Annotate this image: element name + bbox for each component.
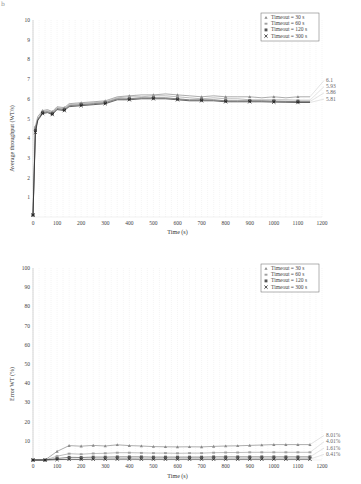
square-marker-icon <box>152 452 155 454</box>
x-tick-label: 800 <box>222 220 231 226</box>
square-marker-icon <box>80 453 83 455</box>
y-tick-label: 10 <box>25 438 31 444</box>
square-marker-icon <box>212 452 215 454</box>
square-marker-icon <box>176 452 179 454</box>
series-end-value: 5.86 <box>326 89 336 95</box>
y-tick-label: 4 <box>27 135 30 141</box>
y-tick-label: 30 <box>25 399 31 405</box>
y-tick-label: 60 <box>25 342 31 348</box>
filled-square-marker-icon <box>265 279 268 282</box>
x-tick-label: 1000 <box>268 220 279 226</box>
error-chart: 1020304050607080901000100200300400500600… <box>9 264 341 480</box>
y-tick-label: 5 <box>27 116 30 122</box>
legend-entry: Timeout = 30 s <box>271 14 304 20</box>
square-marker-icon <box>56 455 59 457</box>
x-tick-label: 100 <box>53 220 62 226</box>
square-marker-icon <box>224 452 227 454</box>
x-tick-label: 1100 <box>293 220 304 226</box>
y-tick-label: 50 <box>25 361 31 367</box>
y-tick-label: 6 <box>27 96 30 102</box>
x-tick-label: 700 <box>197 220 206 226</box>
legend-entry: Timeout = 60 s <box>271 271 304 277</box>
x-tick-label: 0 <box>32 220 35 226</box>
series-end-value: 5.81 <box>326 96 336 102</box>
series-end-value: 4.01% <box>326 438 341 444</box>
square-marker-icon <box>68 453 71 455</box>
x-tick-label: 600 <box>173 220 182 226</box>
series-end-value: 0.41% <box>326 451 341 457</box>
x-tick-label: 300 <box>101 220 110 226</box>
series-end-value: 5.93 <box>326 83 336 89</box>
y-tick-label: 3 <box>27 155 30 161</box>
series-30s: 6.1 <box>31 77 333 216</box>
x-tick-label: 400 <box>125 220 134 226</box>
y-tick-label: 7 <box>27 76 30 82</box>
x-tick-label: 800 <box>222 463 231 469</box>
square-marker-icon <box>260 451 263 453</box>
square-marker-icon <box>272 451 275 453</box>
square-marker-icon <box>236 452 239 454</box>
series-end-value: 6.1 <box>326 77 333 83</box>
x-tick-label: 900 <box>246 463 255 469</box>
square-marker-icon <box>265 23 268 25</box>
x-tick-label: 0 <box>32 463 35 469</box>
square-marker-icon <box>164 452 167 454</box>
y-axis-title: Average throughput (WT/s) <box>9 105 16 172</box>
legend-entry: Timeout = 120 s <box>271 26 307 32</box>
y-tick-label: 20 <box>25 419 31 425</box>
square-marker-icon <box>284 451 287 453</box>
square-marker-icon <box>200 452 203 454</box>
x-tick-label: 200 <box>77 220 86 226</box>
x-tick-label: 300 <box>101 463 110 469</box>
y-tick-label: 80 <box>25 303 31 309</box>
series-line <box>33 96 310 215</box>
x-axis-title: Time (s) <box>167 229 187 236</box>
x-tick-label: 1200 <box>317 220 328 226</box>
series-end-value: 1.61% <box>326 445 341 451</box>
square-marker-icon <box>296 451 299 453</box>
y-tick-label: 100 <box>22 265 31 271</box>
legend: Timeout = 30 sTimeout = 60 sTimeout = 12… <box>261 13 319 41</box>
y-tick-label: 70 <box>25 323 31 329</box>
x-tick-label: 500 <box>149 220 158 226</box>
square-marker-icon <box>116 452 119 454</box>
x-tick-label: 900 <box>246 220 255 226</box>
x-tick-label: 700 <box>197 463 206 469</box>
y-tick-label: 40 <box>25 380 31 386</box>
legend: Timeout = 30 sTimeout = 60 sTimeout = 12… <box>261 264 319 292</box>
y-axis-title: Error WT (%) <box>9 367 16 401</box>
square-marker-icon <box>248 451 251 453</box>
x-tick-label: 1100 <box>293 463 304 469</box>
square-marker-icon <box>92 453 95 455</box>
legend-entry: Timeout = 60 s <box>271 20 304 26</box>
y-tick-label: 2 <box>27 175 30 181</box>
y-tick-label: 8 <box>27 56 30 62</box>
filled-square-marker-icon <box>265 28 268 31</box>
x-tick-label: 1000 <box>268 463 279 469</box>
legend-entry: Timeout = 300 s <box>271 33 307 39</box>
square-marker-icon <box>188 452 191 454</box>
square-marker-icon <box>128 452 131 454</box>
throughput-chart: 1234567891001002003004005006007008009001… <box>9 13 336 236</box>
x-tick-label: 100 <box>53 463 62 469</box>
legend-entry: Timeout = 30 s <box>271 265 304 271</box>
y-tick-label: 10 <box>25 17 31 23</box>
y-tick-label: 1 <box>27 194 30 200</box>
x-tick-label: 500 <box>149 463 158 469</box>
x-tick-label: 400 <box>125 463 134 469</box>
legend-entry: Timeout = 300 s <box>271 284 307 290</box>
charts-canvas: 1234567891001002003004005006007008009001… <box>0 0 361 484</box>
square-marker-icon <box>140 452 143 454</box>
series-end-value: 8.01% <box>326 432 341 438</box>
x-tick-label: 200 <box>77 463 86 469</box>
y-tick-label: 9 <box>27 37 30 43</box>
legend-entry: Timeout = 120 s <box>271 277 307 283</box>
y-tick-label: 90 <box>25 284 31 290</box>
square-marker-icon <box>265 274 268 276</box>
x-axis-title: Time (s) <box>167 473 187 480</box>
x-tick-label: 600 <box>173 463 182 469</box>
x-tick-label: 1200 <box>317 463 328 469</box>
square-marker-icon <box>104 452 107 454</box>
